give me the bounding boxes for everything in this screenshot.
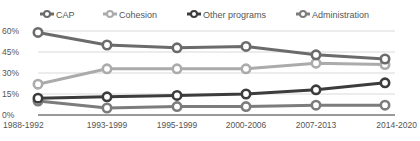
data-point — [34, 80, 42, 88]
data-point — [34, 28, 42, 36]
series-lines — [34, 28, 389, 112]
data-point — [312, 51, 320, 59]
legend-label: CAP — [56, 10, 75, 20]
data-point — [103, 104, 111, 112]
legend-item-cap: CAP — [40, 10, 75, 20]
y-tick-label: 45% — [2, 47, 19, 57]
y-tick-label: 0% — [2, 110, 15, 120]
x-tick-label: 2000-2006 — [226, 120, 267, 130]
data-point — [242, 90, 250, 98]
data-point — [173, 44, 181, 52]
data-point — [381, 55, 389, 63]
legend-item-other-programs: Other programs — [187, 10, 267, 20]
x-tick-label: 1988-1992 — [3, 120, 44, 130]
data-point — [173, 102, 181, 110]
data-point — [173, 65, 181, 73]
x-tick-label: 2014-2020 — [376, 120, 417, 130]
data-point — [242, 65, 250, 73]
data-point — [242, 102, 250, 110]
legend-label: Administration — [312, 10, 369, 20]
y-tick-label: 15% — [2, 89, 19, 99]
series-administration — [34, 97, 389, 112]
data-point — [103, 41, 111, 49]
x-axis: 1988-19921993-19991995-19992000-20062007… — [3, 120, 417, 130]
data-point — [103, 93, 111, 101]
legend-item-administration: Administration — [296, 10, 369, 20]
series-cohesion — [34, 59, 389, 88]
legend-label: Cohesion — [119, 10, 157, 20]
data-point — [34, 94, 42, 102]
data-point — [103, 65, 111, 73]
line-chart: CAPCohesionOther programsAdministration … — [0, 0, 420, 141]
y-tick-label: 60% — [2, 26, 19, 36]
data-point — [381, 101, 389, 109]
legend-label: Other programs — [203, 10, 267, 20]
data-point — [173, 91, 181, 99]
y-tick-label: 30% — [2, 68, 19, 78]
legend-item-cohesion: Cohesion — [103, 10, 157, 20]
x-tick-label: 1995-1999 — [157, 120, 198, 130]
chart-canvas: CAPCohesionOther programsAdministration … — [0, 0, 420, 141]
series-other-programs — [34, 79, 389, 103]
x-tick-label: 1993-1999 — [87, 120, 128, 130]
data-point — [242, 42, 250, 50]
x-tick-label: 2007-2013 — [296, 120, 337, 130]
legend: CAPCohesionOther programsAdministration — [40, 10, 369, 20]
data-point — [312, 101, 320, 109]
series-cap — [34, 28, 389, 63]
data-point — [312, 86, 320, 94]
data-point — [381, 79, 389, 87]
y-axis: 0%15%30%45%60% — [2, 26, 19, 120]
